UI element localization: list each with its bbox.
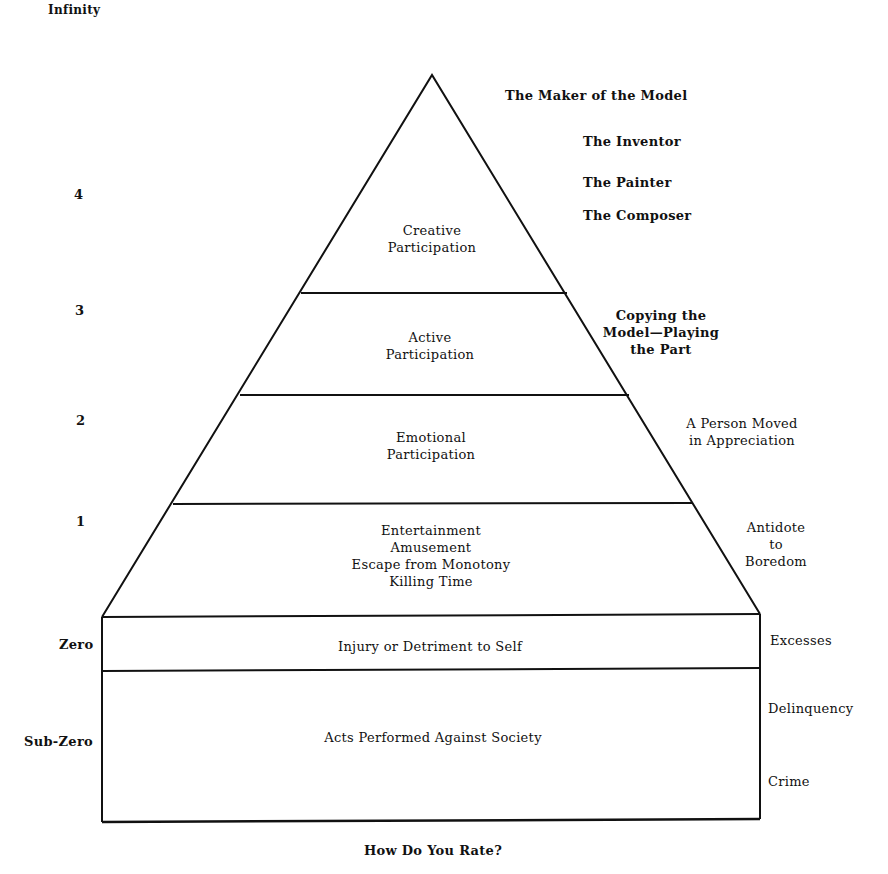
annotation-maker-of-the-model: The Maker of the Model [505, 87, 687, 104]
annotation-painter: The Painter [583, 174, 672, 191]
annotation-composer: The Composer [583, 207, 692, 224]
divider-zero-subzero [102, 668, 760, 671]
annotation-person-moved: A Person Moved in Appreciation [686, 415, 797, 449]
annotation-delinquency: Delinquency [768, 700, 854, 717]
scale-label-4: 4 [74, 186, 83, 203]
divider-triangle-base [102, 614, 760, 617]
level-acts-against-society: Acts Performed Against Society [324, 729, 542, 746]
annotation-copying-the-model: Copying the Model—Playing the Part [603, 307, 719, 358]
level-entertainment: Entertainment Amusement Escape from Mono… [352, 522, 511, 590]
scale-label-zero: Zero [59, 636, 93, 653]
level-emotional-participation: Emotional Participation [387, 429, 476, 463]
level-active-participation: Active Participation [386, 329, 475, 363]
level-injury-to-self: Injury or Detriment to Self [338, 638, 522, 655]
annotation-antidote-to-boredom: Antidote to Boredom [745, 519, 807, 570]
divider-emotional-entertainment [173, 503, 693, 504]
level-creative-participation: Creative Participation [388, 222, 477, 256]
annotation-crime: Crime [768, 773, 810, 790]
scale-label-3: 3 [75, 302, 84, 319]
annotation-excesses: Excesses [770, 632, 832, 649]
scale-label-sub-zero: Sub-Zero [24, 733, 93, 750]
scale-label-infinity: Infinity [48, 2, 100, 19]
diagram-caption: How Do You Rate? [364, 842, 502, 859]
annotation-inventor: The Inventor [583, 133, 681, 150]
scale-label-1: 1 [76, 513, 85, 530]
base-bottom-edge [102, 819, 760, 822]
scale-label-2: 2 [76, 412, 85, 429]
